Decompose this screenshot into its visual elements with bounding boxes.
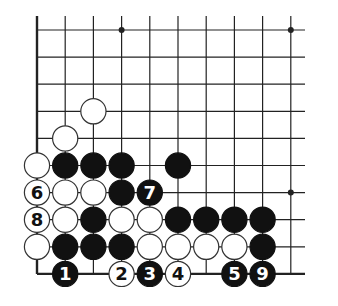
white-stone-icon: [53, 207, 78, 232]
white-stone-icon: [109, 207, 134, 232]
white-stone: [53, 126, 78, 151]
star-point-icon: [288, 27, 294, 33]
white-stone: [165, 234, 190, 259]
white-stone-icon: [81, 180, 106, 205]
black-stone: [53, 234, 78, 259]
white-stone-move-8: 8: [24, 207, 49, 232]
white-stone: [222, 234, 247, 259]
white-stone-icon: [137, 207, 162, 232]
white-stone: [109, 207, 134, 232]
white-stone: [137, 207, 162, 232]
star-point-icon: [119, 27, 125, 33]
white-stone-icon: [53, 180, 78, 205]
black-stone-icon: [222, 207, 247, 232]
move-number: 1: [59, 263, 72, 284]
white-stone-move-6: 6: [24, 180, 49, 205]
black-stone: [109, 234, 134, 259]
black-stone: [222, 207, 247, 232]
black-stone: [250, 234, 275, 259]
black-stone: [53, 153, 78, 178]
white-stone-move-2: 2: [109, 261, 134, 286]
black-stone-icon: [53, 234, 78, 259]
black-stone-icon: [53, 153, 78, 178]
black-stone-icon: [81, 207, 106, 232]
move-number: 2: [115, 263, 128, 284]
move-number: 9: [256, 263, 269, 284]
white-stone: [24, 153, 49, 178]
white-stone: [194, 234, 219, 259]
black-stone-icon: [165, 153, 190, 178]
black-stone: [194, 207, 219, 232]
black-stone-icon: [81, 234, 106, 259]
black-stone-icon: [250, 207, 275, 232]
black-stone-move-5: 5: [222, 261, 247, 286]
black-stone-move-3: 3: [137, 261, 162, 286]
black-stone-move-9: 9: [250, 261, 275, 286]
black-stone-icon: [165, 207, 190, 232]
white-stone-icon: [24, 234, 49, 259]
black-stone-icon: [109, 180, 134, 205]
star-point-icon: [288, 190, 294, 196]
black-stone-icon: [109, 153, 134, 178]
white-stone-move-4: 4: [165, 261, 190, 286]
white-stone-icon: [222, 234, 247, 259]
white-stone: [81, 180, 106, 205]
black-stone-icon: [194, 207, 219, 232]
move-number: 8: [31, 209, 44, 230]
white-stone-icon: [81, 99, 106, 124]
white-stone-icon: [53, 126, 78, 151]
move-number: 4: [172, 263, 185, 284]
move-number: 6: [31, 182, 44, 203]
white-stone-icon: [24, 153, 49, 178]
white-stone-icon: [165, 234, 190, 259]
black-stone-icon: [109, 234, 134, 259]
white-stone: [53, 207, 78, 232]
black-stone-move-7: 7: [137, 180, 162, 205]
white-stone: [81, 99, 106, 124]
black-stone: [109, 153, 134, 178]
white-stone: [137, 234, 162, 259]
black-stone-icon: [81, 153, 106, 178]
black-stone: [165, 153, 190, 178]
move-number: 3: [144, 263, 157, 284]
move-number: 7: [144, 182, 157, 203]
black-stone-move-1: 1: [53, 261, 78, 286]
black-stone: [81, 153, 106, 178]
black-stone: [109, 180, 134, 205]
black-stone: [81, 234, 106, 259]
move-number: 5: [228, 263, 241, 284]
black-stone: [81, 207, 106, 232]
white-stone: [53, 180, 78, 205]
black-stone: [165, 207, 190, 232]
black-stone: [250, 207, 275, 232]
white-stone-icon: [137, 234, 162, 259]
go-board: 678123459: [0, 0, 338, 306]
white-stone: [24, 234, 49, 259]
white-stone-icon: [194, 234, 219, 259]
black-stone-icon: [250, 234, 275, 259]
